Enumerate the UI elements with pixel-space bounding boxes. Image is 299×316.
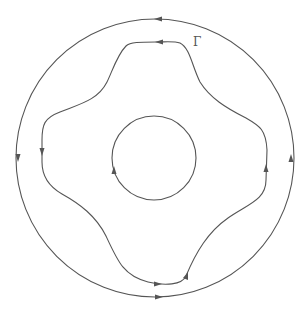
inner-circle [112, 116, 196, 200]
arrow-icon [40, 148, 45, 156]
outer-circle [16, 19, 294, 297]
arrow-icon [155, 40, 163, 45]
arrow-icon [154, 282, 162, 287]
arrow-icon [264, 164, 269, 172]
gamma-label: Γ [193, 35, 201, 49]
arrow-icon [154, 17, 162, 22]
arrow-icon [112, 166, 117, 174]
diagram-canvas: Γ [0, 0, 299, 316]
arrow-icon [155, 295, 163, 300]
middle-contour [42, 42, 267, 284]
arrow-icon [289, 154, 294, 162]
